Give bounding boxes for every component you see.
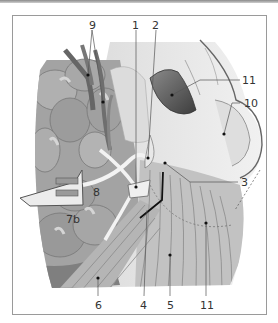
- label-7b: 8: [93, 187, 100, 198]
- label-6: 6: [95, 300, 102, 311]
- label-5: 5: [167, 300, 174, 311]
- label-1: 1: [132, 20, 139, 31]
- label-3: 3: [241, 177, 248, 188]
- label-11: 11: [200, 300, 214, 311]
- label-9: 10: [244, 98, 258, 109]
- label-7a: 7b: [66, 214, 80, 225]
- label-8: 9: [89, 20, 96, 31]
- label-2: 2: [152, 20, 159, 31]
- label-10: 11: [242, 75, 256, 86]
- label-4: 4: [140, 300, 147, 311]
- anatomical-illustration: [0, 0, 278, 323]
